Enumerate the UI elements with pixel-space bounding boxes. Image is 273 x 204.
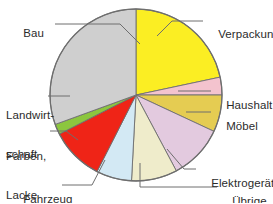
- pie-label-fahrzeug: Fahrzeug: [10, 180, 73, 203]
- pie-label-bau: Bau: [10, 14, 44, 52]
- pie-label-farben-line1: Farben,: [6, 150, 46, 163]
- pie-slice-group: [50, 9, 222, 181]
- pie-label-uebrige-text: Übrige: [232, 195, 266, 204]
- pie-label-bau-text: Bau: [23, 27, 44, 39]
- pie-label-verpackung: Verpackung: [205, 15, 273, 53]
- pie-chart-figure: Bau Landwirt- schaft Farben, Lacke Fahrz…: [0, 0, 273, 203]
- pie-label-fahrzeug-text: Fahrzeug: [23, 193, 72, 204]
- pie-label-uebrige: Übrige: [219, 182, 267, 203]
- pie-label-moebel: Möbel: [213, 107, 258, 145]
- pie-label-verpackung-text: Verpackung: [218, 28, 273, 40]
- pie-label-landwirtschaft-line1: Landwirt-: [6, 109, 54, 122]
- pie-label-moebel-text: Möbel: [226, 120, 258, 132]
